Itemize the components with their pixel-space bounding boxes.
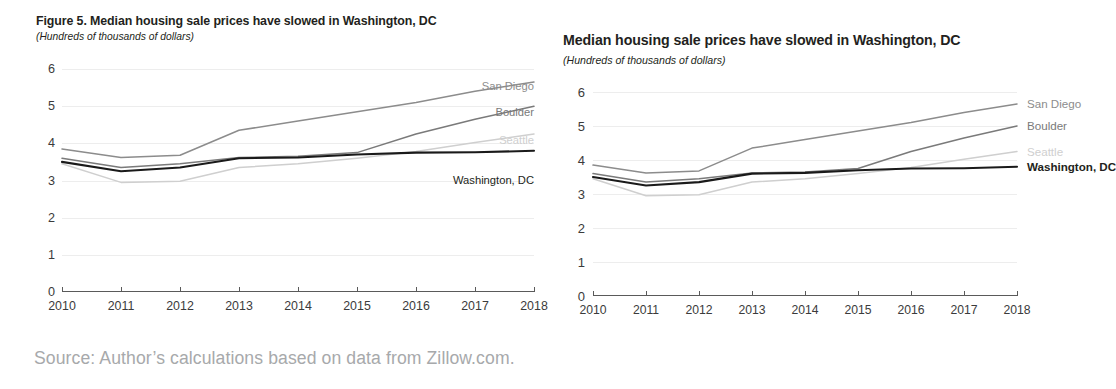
x-axis-tick-label: 2015 (844, 304, 871, 316)
figure-panel-right: Median housing sale prices have slowed i… (552, 0, 1116, 340)
x-axis-tick-label: 2018 (520, 300, 548, 312)
x-axis-tick-label: 2017 (950, 304, 977, 316)
y-axis-tick-label: 6 (48, 63, 55, 76)
series-lines (593, 92, 1017, 296)
y-axis-tick-label: 5 (578, 120, 585, 133)
y-axis-tick-label: 4 (48, 137, 55, 150)
y-axis-tick-label: 2 (48, 211, 55, 224)
x-axis-tick-label: 2017 (461, 300, 489, 312)
y-axis-tick-label: 4 (578, 154, 585, 167)
page-title: Figure 5. Median housing sale prices hav… (36, 14, 437, 28)
x-axis-tick-mark (1017, 291, 1018, 296)
x-axis-tick-label: 2014 (284, 300, 312, 312)
y-axis-tick-label: 0 (578, 290, 585, 303)
x-axis-tick-label: 2014 (791, 304, 818, 316)
data-series-line (593, 104, 1017, 173)
x-axis-tick-label: 2013 (225, 300, 253, 312)
y-axis-tick-label: 2 (578, 222, 585, 235)
x-axis-tick-label: 2011 (108, 300, 135, 312)
data-series-line (62, 82, 534, 158)
figure-container: Figure 5. Median housing sale prices hav… (0, 0, 1116, 389)
x-axis-tick-label: 2013 (738, 304, 765, 316)
y-axis-tick-label: 6 (578, 86, 585, 99)
x-axis-tick-label: 2016 (402, 300, 430, 312)
y-axis-tick-label: 0 (48, 286, 55, 299)
series-label-washington-dc: Washington, DC (1027, 161, 1116, 173)
x-axis-tick-label: 2012 (685, 304, 712, 316)
series-label-san-diego: San Diego (482, 81, 534, 92)
x-axis-tick-label: 2010 (48, 300, 76, 312)
series-label-san-diego: San Diego (1027, 98, 1081, 110)
series-label-seattle: Seattle (499, 135, 534, 146)
chart-area: 0123456201020112012201320142015201620172… (62, 69, 534, 292)
chart-plot-right: 0123456201020112012201320142015201620172… (563, 84, 1103, 322)
series-label-boulder: Boulder (495, 107, 534, 118)
y-axis-tick-label: 1 (578, 256, 585, 269)
y-axis-tick-label: 3 (578, 188, 585, 201)
x-axis-tick-mark (534, 287, 535, 292)
data-series-line (62, 151, 534, 171)
chart-plot-left: 0123456201020112012201320142015201620172… (36, 60, 534, 318)
y-axis-tick-label: 1 (48, 249, 55, 262)
series-label-seattle: Seattle (1027, 146, 1063, 158)
x-axis-tick-label: 2012 (166, 300, 194, 312)
y-axis-tick-label: 3 (48, 174, 55, 187)
x-axis-tick-label: 2010 (579, 304, 606, 316)
page-title-secondary: Median housing sale prices have slowed i… (563, 32, 961, 48)
x-axis-tick-label: 2011 (633, 304, 659, 316)
chart-area: 0123456201020112012201320142015201620172… (593, 92, 1017, 296)
series-label-washington-dc: Washington, DC (453, 175, 534, 186)
x-axis-tick-label: 2018 (1003, 304, 1030, 316)
panel-subtitle-secondary: (Hundreds of thousands of dollars) (563, 54, 726, 66)
x-axis-tick-label: 2016 (897, 304, 924, 316)
y-axis-tick-label: 5 (48, 100, 55, 113)
data-series-line (593, 167, 1017, 186)
series-label-boulder: Boulder (1027, 120, 1067, 132)
panel-subtitle: (Hundreds of thousands of dollars) (36, 31, 194, 42)
source-note: Source: Author’s calculations based on d… (34, 348, 515, 369)
x-axis-tick-label: 2015 (343, 300, 371, 312)
figure-panel-left: Figure 5. Median housing sale prices hav… (0, 0, 552, 340)
